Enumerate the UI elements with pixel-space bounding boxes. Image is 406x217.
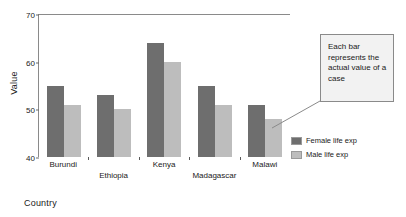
bar-group bbox=[97, 15, 131, 157]
legend-label: Female life exp bbox=[306, 136, 357, 145]
bar-group bbox=[198, 15, 232, 157]
x-axis-category-labels: BurundiEthiopiaKenyaMadagascarMalawi bbox=[38, 160, 290, 186]
legend-label: Male life exp bbox=[306, 150, 348, 159]
bar-ethiopia-male bbox=[114, 109, 131, 157]
bar-madagascar-male bbox=[215, 105, 232, 157]
x-axis-title: Country bbox=[24, 198, 57, 208]
legend-swatch bbox=[291, 151, 302, 159]
x-axis-label-madagascar: Madagascar bbox=[192, 171, 236, 180]
x-axis-label-kenya: Kenya bbox=[153, 160, 176, 169]
annotation-callout: Each bar represents the actual value of … bbox=[320, 34, 394, 102]
bar-kenya-male bbox=[164, 62, 181, 157]
y-axis-title: Value bbox=[9, 53, 19, 113]
bar-burundi-male bbox=[64, 105, 81, 157]
plot-area: 40506070 bbox=[38, 14, 290, 157]
bar-group bbox=[248, 15, 282, 157]
bar-malawi-male bbox=[265, 119, 282, 157]
bar-malawi-female bbox=[248, 105, 265, 157]
x-axis-label-ethiopia: Ethiopia bbox=[99, 171, 128, 180]
legend: Female life expMale life exp bbox=[291, 136, 357, 159]
bar-group bbox=[147, 15, 181, 157]
legend-item[interactable]: Male life exp bbox=[291, 150, 357, 159]
bar-groups bbox=[39, 15, 290, 157]
bar-burundi-female bbox=[47, 86, 64, 158]
chart-screenshot: Value Country 40506070 BurundiEthiopiaKe… bbox=[0, 0, 406, 217]
x-axis-label-burundi: Burundi bbox=[49, 160, 77, 169]
x-axis-label-malawi: Malawi bbox=[252, 160, 277, 169]
bar-kenya-female bbox=[147, 43, 164, 157]
bar-ethiopia-female bbox=[97, 95, 114, 157]
bar-madagascar-female bbox=[198, 86, 215, 158]
bar-group bbox=[47, 15, 81, 157]
legend-item[interactable]: Female life exp bbox=[291, 136, 357, 145]
legend-swatch bbox=[291, 137, 302, 145]
